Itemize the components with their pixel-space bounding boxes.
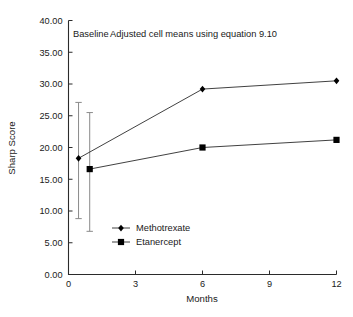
y-tick-label: 15.00: [40, 175, 63, 185]
x-tick-label: 12: [331, 279, 341, 289]
x-tick-label: 6: [200, 279, 205, 289]
y-axis-title: Sharp Score: [6, 121, 17, 174]
x-axis-tick-labels: 036912: [66, 279, 342, 289]
chart-annotation: Baseline: [73, 29, 109, 39]
y-tick-label: 35.00: [40, 48, 63, 58]
chart-legend: MethotrexateEtanercept: [112, 223, 190, 247]
y-axis-tick-labels: 0.005.0010.0015.0020.0025.0030.0035.0040…: [40, 16, 63, 280]
data-series: [76, 77, 340, 172]
data-point-marker: [200, 86, 206, 93]
y-tick-label: 0.00: [45, 270, 63, 280]
x-tick-label: 3: [133, 279, 138, 289]
chart-annotations: BaselineAdjusted cell means using equati…: [73, 29, 277, 39]
chart-canvas: 0.005.0010.0015.0020.0025.0030.0035.0040…: [0, 0, 353, 317]
legend-item-methotrexate[interactable]: Methotrexate: [112, 223, 190, 233]
series-methotrexate: [76, 77, 340, 161]
y-tick-label: 40.00: [40, 16, 63, 26]
y-tick-label: 25.00: [40, 111, 63, 121]
x-tick-label: 0: [66, 279, 71, 289]
chart-annotation: Adjusted cell means using equation 9.10: [110, 29, 277, 39]
data-point-marker: [333, 137, 339, 143]
data-point-marker: [334, 77, 340, 84]
data-point-marker: [76, 155, 82, 162]
y-tick-label: 5.00: [45, 238, 63, 248]
y-tick-label: 30.00: [40, 79, 63, 89]
legend-label: Methotrexate: [136, 223, 190, 233]
y-axis-tick-marks: [69, 21, 73, 275]
x-tick-label: 9: [267, 279, 272, 289]
legend-label: Etanercept: [136, 237, 181, 247]
data-point-marker: [87, 166, 93, 172]
data-point-marker: [118, 225, 124, 232]
sharp-score-chart: 0.005.0010.0015.0020.0025.0030.0035.0040…: [0, 0, 353, 317]
series-etanercept: [87, 137, 340, 172]
data-point-marker: [118, 239, 124, 245]
y-tick-label: 20.00: [40, 143, 63, 153]
legend-item-etanercept[interactable]: Etanercept: [112, 237, 181, 247]
x-axis-title: Months: [186, 293, 218, 304]
data-point-marker: [199, 144, 205, 150]
y-tick-label: 10.00: [40, 206, 63, 216]
x-axis-tick-marks: [69, 271, 337, 275]
